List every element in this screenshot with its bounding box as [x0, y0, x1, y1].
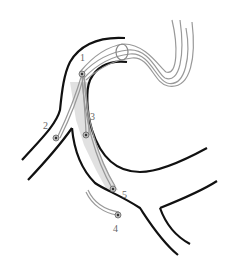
label-3: 3: [90, 112, 95, 122]
vessel-branch-right-upper: [160, 181, 217, 208]
vessel-inner-wall: [87, 62, 207, 172]
label-2: 2: [43, 121, 48, 131]
vessel-branch-wall-left: [28, 128, 72, 180]
diagram-canvas: 1 2 3 4 5: [0, 0, 232, 280]
catheter-upper: [80, 20, 193, 86]
vessel-diagram: [0, 0, 232, 280]
label-4: 4: [113, 224, 118, 234]
label-5: 5: [122, 190, 127, 200]
vessel-branch-lower-right: [160, 208, 190, 244]
label-1: 1: [80, 53, 85, 63]
